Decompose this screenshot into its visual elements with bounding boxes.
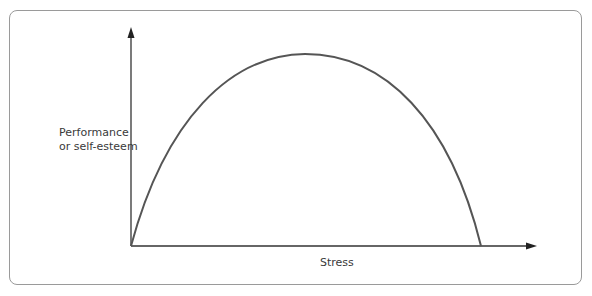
y-axis-label: Performance or self-esteem — [59, 126, 138, 154]
performance-curve — [131, 54, 481, 246]
y-axis-arrow-icon — [128, 27, 135, 38]
x-axis-label: Stress — [320, 256, 354, 270]
y-axis-label-line2: or self-esteem — [59, 140, 138, 154]
x-axis-arrow-icon — [526, 243, 537, 250]
y-axis-label-line1: Performance — [59, 126, 138, 140]
